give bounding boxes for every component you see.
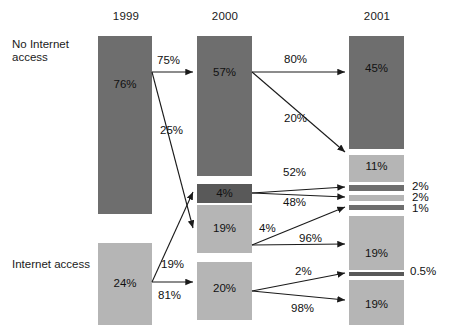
flow-label-52pct: 52% — [283, 166, 306, 178]
flow-label-81pct: 81% — [158, 289, 181, 301]
flow-label-19pct: 19% — [161, 258, 184, 270]
flow-label-96pct: 96% — [299, 232, 322, 244]
flow-label-80pct: 80% — [284, 53, 307, 65]
flow-label-48pct: 48% — [283, 196, 306, 208]
flow-label-98pct: 98% — [291, 302, 314, 314]
transition-flow-diagram: 1999 2000 2001 No Internet access Intern… — [0, 0, 451, 335]
flow-label-75pct: 75% — [157, 54, 180, 66]
arrow-98pct — [252, 291, 345, 300]
flow-label-20pct: 20% — [284, 112, 307, 124]
flow-arrows-layer — [0, 0, 451, 335]
arrow-52pct — [252, 187, 345, 193]
flow-label-4pct: 4% — [259, 222, 276, 234]
arrow-96pct — [252, 244, 345, 245]
flow-label-25pct: 25% — [160, 124, 183, 136]
flow-label-2pct: 2% — [295, 265, 312, 277]
